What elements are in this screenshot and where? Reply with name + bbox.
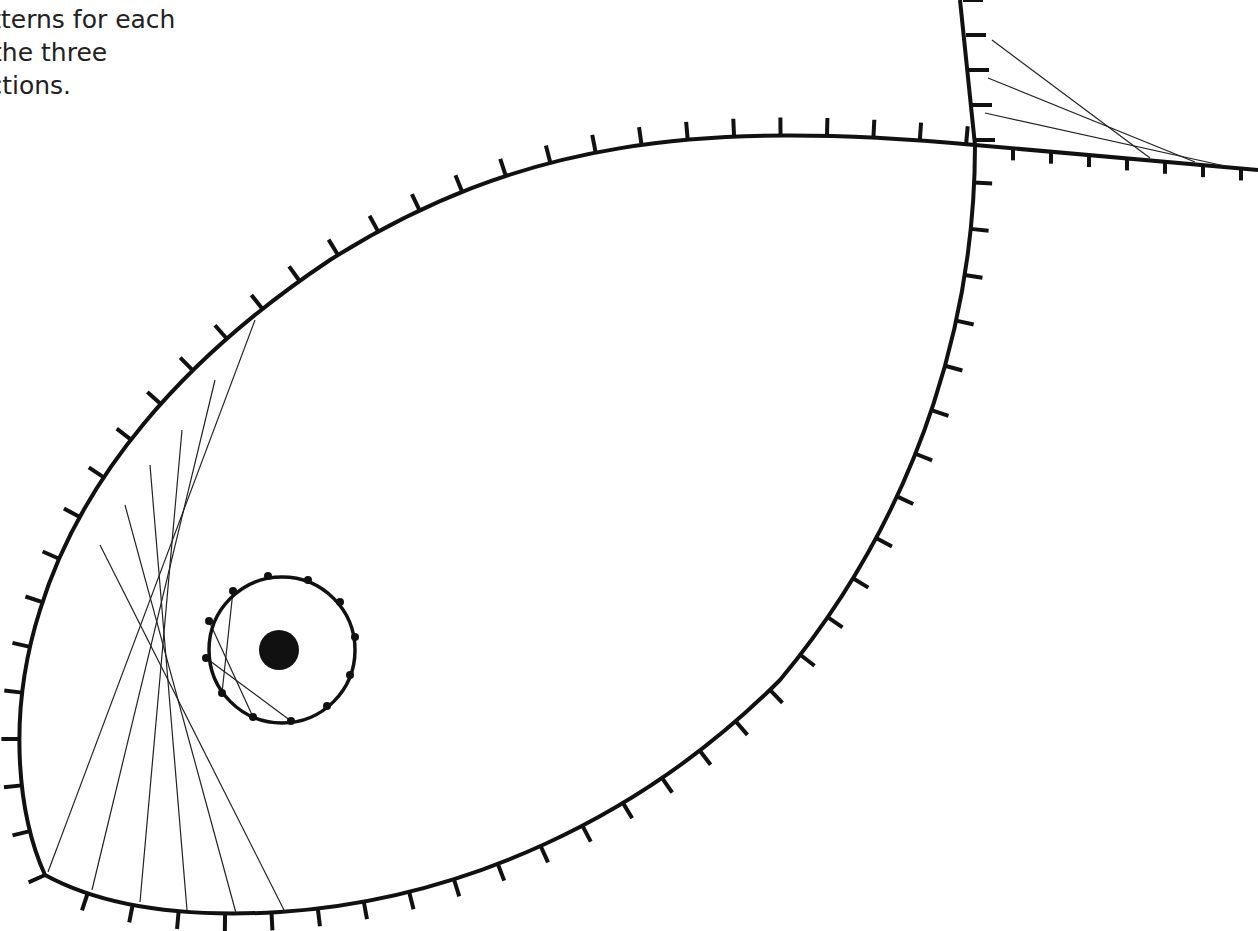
tick-mark (12, 643, 30, 647)
tick-mark (289, 266, 299, 281)
fish-diagram (0, 0, 1258, 931)
tick-mark (329, 240, 338, 255)
eye-dot (323, 702, 331, 710)
tick-mark (180, 358, 193, 371)
tick-mark (364, 902, 367, 920)
fish-body-outline (19, 136, 975, 914)
tick-mark (82, 893, 88, 910)
tick-mark (370, 216, 379, 232)
tick-mark (686, 122, 688, 140)
tick-mark (736, 721, 748, 735)
tick-mark (873, 120, 874, 138)
tick-marks (1, 118, 992, 931)
tick-mark (147, 392, 160, 404)
string-line (92, 380, 215, 890)
tick-mark (500, 159, 506, 176)
tick-mark (931, 410, 948, 416)
string-line (48, 320, 255, 872)
tick-mark (4, 691, 22, 693)
tick-mark (828, 617, 843, 627)
tick-mark (956, 321, 974, 325)
tick-mark (876, 538, 892, 547)
tick-mark (915, 454, 932, 461)
eye-dot (346, 671, 354, 679)
string-lines (48, 40, 1225, 913)
tick-mark (129, 905, 132, 923)
tick-mark (117, 429, 131, 440)
tick-mark (800, 655, 814, 666)
tick-mark (498, 864, 504, 881)
tick-mark (582, 826, 590, 842)
string-line (125, 505, 236, 913)
tick-mark (89, 467, 104, 477)
eye-dot (264, 572, 272, 580)
eye-dot (304, 576, 312, 584)
tick-mark (853, 578, 868, 587)
eye-dot (336, 598, 344, 606)
tick-mark (272, 912, 273, 930)
tick-mark (409, 892, 413, 909)
eye-dot (351, 633, 359, 641)
tick-mark (454, 879, 459, 896)
tail-axis (975, 145, 1258, 170)
tick-mark (29, 875, 45, 882)
tick-mark (897, 496, 913, 504)
pupil (259, 630, 299, 670)
eye-dot (229, 587, 237, 595)
tick-mark (971, 229, 989, 231)
eye-dot (202, 654, 210, 662)
tick-mark (770, 690, 782, 703)
tick-mark (13, 831, 30, 835)
tick-mark (43, 551, 59, 558)
tick-mark (945, 366, 962, 371)
tick-mark (623, 803, 632, 818)
tick-mark (25, 596, 42, 602)
fish-eye (202, 572, 359, 725)
tail-axis (960, 0, 975, 145)
tick-mark (974, 183, 992, 184)
string-line (992, 40, 1150, 158)
tick-mark (251, 295, 262, 309)
eye-dot (287, 717, 295, 725)
tick-mark (177, 911, 179, 929)
tick-mark (639, 127, 641, 145)
tick-mark (455, 175, 462, 192)
tick-mark (541, 846, 548, 862)
tick-mark (318, 908, 320, 926)
eye-dot (205, 617, 213, 625)
tick-mark (662, 778, 672, 793)
tick-mark (700, 751, 711, 765)
tick-mark (546, 145, 551, 162)
tick-mark (966, 126, 968, 144)
eye-dot (249, 713, 257, 721)
eye-dot (218, 689, 226, 697)
tick-mark (412, 194, 420, 210)
tick-mark (920, 123, 921, 141)
string-line (100, 545, 285, 912)
tick-mark (965, 275, 983, 278)
string-line (150, 465, 187, 910)
tick-mark (4, 785, 22, 787)
tick-mark (733, 119, 734, 137)
tick-mark (215, 325, 227, 339)
tick-mark (64, 508, 80, 517)
tick-mark (592, 135, 595, 153)
fish-tail-axes (960, 0, 1258, 180)
